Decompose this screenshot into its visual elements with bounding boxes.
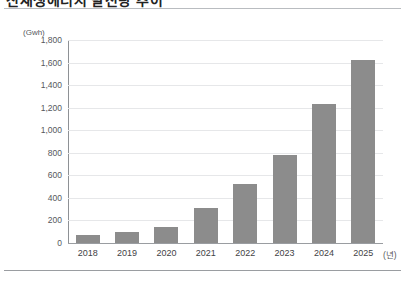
y-axis-tick: 600 xyxy=(16,170,62,180)
y-axis-tick: 200 xyxy=(16,215,62,225)
x-axis-tick-2023: 2023 xyxy=(265,248,305,258)
bar-series xyxy=(68,40,383,243)
x-axis-tick-2025: 2025 xyxy=(343,248,383,258)
x-axis-tick-2019: 2019 xyxy=(107,248,147,258)
bar-2019 xyxy=(115,232,139,243)
y-axis-tick: 1,800 xyxy=(16,35,62,45)
bar-2024 xyxy=(312,104,336,243)
chart-title-text: 신재생에너지 발전량 추이 xyxy=(6,0,163,8)
bar-2021 xyxy=(194,208,218,243)
divider-top xyxy=(4,8,401,9)
bar-2025 xyxy=(351,60,375,243)
divider-bottom xyxy=(4,270,401,271)
x-axis-tick-2021: 2021 xyxy=(186,248,226,258)
plot-area xyxy=(68,40,383,243)
y-axis-tick: 1,200 xyxy=(16,103,62,113)
bar-2018 xyxy=(76,235,100,243)
gridline xyxy=(68,243,383,244)
y-axis-tick: 1,000 xyxy=(16,125,62,135)
x-axis-tick-2024: 2024 xyxy=(304,248,344,258)
y-axis-tick: 0 xyxy=(16,238,62,248)
x-axis-tick-2018: 2018 xyxy=(68,248,108,258)
x-axis-tick-2022: 2022 xyxy=(225,248,265,258)
x-axis-unit-label: (년) xyxy=(383,248,397,260)
y-axis-tick-labels: 1,8001,6001,4001,2001,0008006004002000 xyxy=(16,40,62,243)
y-axis-tick: 1,600 xyxy=(16,58,62,68)
y-axis-tick: 400 xyxy=(16,193,62,203)
bar-2020 xyxy=(154,227,178,243)
chart-title-cropped: 신재생에너지 발전량 추이 xyxy=(0,0,405,8)
y-axis-tick: 800 xyxy=(16,148,62,158)
x-axis-tick-labels: 20182019202020212022202320242025 xyxy=(68,248,383,262)
y-axis-tick: 1,400 xyxy=(16,80,62,90)
chart-figure: 신재생에너지 발전량 추이 (Gwh) 1,8001,6001,4001,200… xyxy=(0,0,405,281)
bar-2023 xyxy=(273,155,297,243)
bar-2022 xyxy=(233,184,257,243)
x-axis-tick-2020: 2020 xyxy=(146,248,186,258)
